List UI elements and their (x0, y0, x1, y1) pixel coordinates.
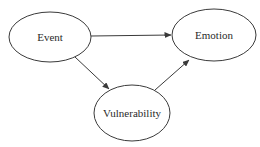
node-vulnerability: Vulnerability (94, 85, 170, 141)
edge-vulnerability-to-emotion (155, 60, 189, 90)
emotion-label: Emotion (195, 29, 233, 41)
edge-event-to-emotion (91, 35, 171, 36)
edge-event-to-vulnerability (75, 57, 109, 89)
event-label: Event (37, 31, 63, 43)
diagram-canvas: Event Emotion Vulnerability (0, 0, 260, 147)
node-emotion: Emotion (172, 9, 256, 61)
vulnerability-label: Vulnerability (103, 107, 161, 119)
node-event: Event (9, 12, 91, 62)
